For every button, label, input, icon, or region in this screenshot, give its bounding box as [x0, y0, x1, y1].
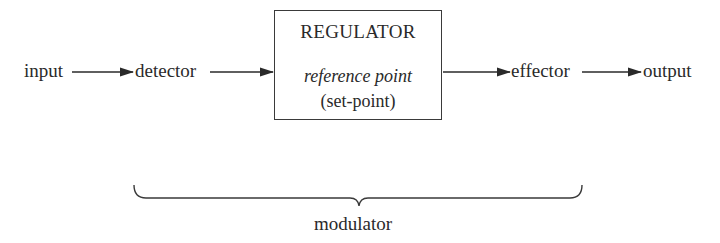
node-output: output — [643, 61, 692, 80]
regulator-title: REGULATOR — [275, 21, 441, 43]
regulator-reference-point: reference point — [275, 66, 441, 87]
node-input: input — [24, 61, 63, 80]
node-detector: detector — [135, 61, 196, 80]
regulator-set-point: (set-point) — [275, 91, 441, 112]
node-regulator: REGULATOR reference point (set-point) — [274, 10, 442, 120]
brace-label-modulator: modulator — [314, 214, 392, 233]
node-effector: effector — [511, 61, 570, 80]
modulator-brace — [134, 185, 582, 206]
